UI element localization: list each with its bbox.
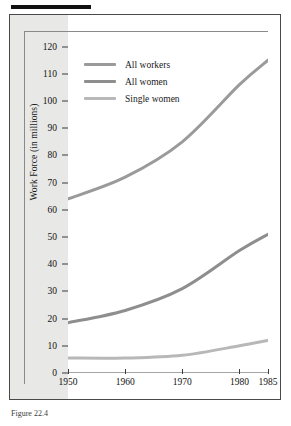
x-tick-mark: [268, 369, 269, 374]
legend-item: All workers: [84, 56, 219, 73]
legend-item: All women: [84, 73, 219, 90]
legend-swatch: [84, 80, 116, 83]
figure-frame: Work Force (in millions) 010203040506070…: [9, 14, 281, 400]
x-tick-label: 1960: [102, 377, 148, 387]
legend-item: Single women: [84, 90, 219, 107]
x-tick-label: 1970: [159, 377, 205, 387]
chart-legend: All workersAll womenSingle women: [84, 56, 219, 107]
legend-swatch: [84, 97, 116, 100]
x-tick-label: 1985: [245, 377, 291, 387]
series-line: [68, 234, 268, 322]
figure-caption: Figure 22.4: [11, 409, 48, 418]
legend-label: All women: [125, 77, 167, 87]
series-line: [68, 340, 268, 358]
figure-top-rule: [11, 5, 91, 9]
legend-label: All workers: [125, 60, 170, 70]
legend-swatch: [84, 63, 116, 66]
legend-label: Single women: [125, 94, 180, 104]
x-tick-label: 1950: [45, 377, 91, 387]
